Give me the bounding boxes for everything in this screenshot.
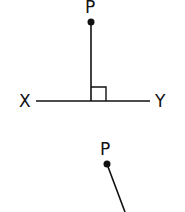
- right-angle-marker: [91, 87, 106, 101]
- y-label: Y: [154, 91, 166, 111]
- figure-perpendicular: P X Y: [19, 0, 166, 111]
- x-label: X: [19, 91, 31, 111]
- point-p-label: P: [85, 0, 95, 17]
- figure-second-point: P: [100, 139, 125, 212]
- point-p2-label: P: [100, 139, 110, 159]
- perpendicular-diagram: P X Y P: [0, 0, 185, 212]
- slanted-segment: [107, 164, 125, 212]
